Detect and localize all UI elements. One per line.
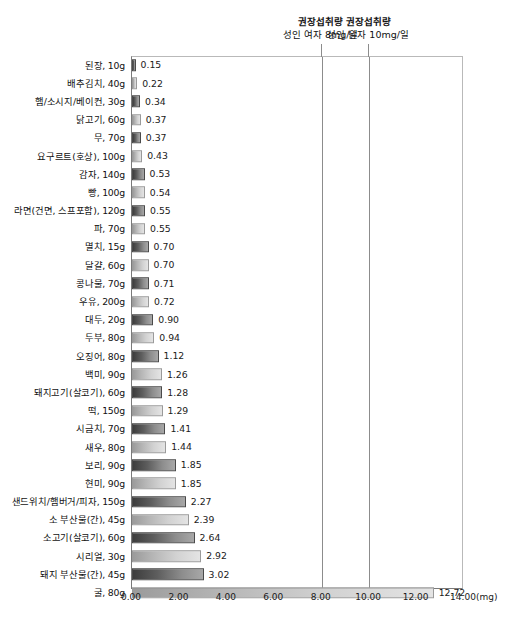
bar-value-label: 0.55 [150,205,171,216]
category-label: 샌드위치/햄버거/피자, 150g [0,496,125,507]
bar-rows: 된장, 10g0.15배추김치, 40g0.22햄/소시지/베이컨, 30g0.… [0,56,509,602]
category-label: 된장, 10g [0,60,125,71]
x-tick-label: 8.00 [311,592,331,602]
bar [132,369,162,381]
bar-container: 3.02 [132,569,229,581]
bar [132,441,166,453]
x-axis-unit: (mg) [476,592,498,602]
bar-container: 0.34 [132,96,166,108]
chart-row: 우유, 200g0.72 [0,292,509,310]
bar-container: 0.22 [132,78,163,90]
bar-container: 0.55 [132,205,171,217]
bar-value-label: 0.70 [154,241,175,252]
bar-value-label: 0.22 [142,78,163,89]
bar-value-label: 0.70 [154,260,175,271]
category-label: 배추김치, 40g [0,78,125,89]
chart-row: 파, 70g0.55 [0,220,509,238]
bar-value-label: 1.29 [168,405,189,416]
category-label: 시리얼, 30g [0,551,125,562]
category-label: 소 부산물(간), 45g [0,514,125,525]
bar-container: 1.26 [132,369,188,381]
bar-container: 0.53 [132,168,170,180]
bar-container: 0.90 [132,314,179,326]
chart-row: 보리, 90g1.85 [0,456,509,474]
x-tick-label: 10.00 [355,592,381,602]
bar-value-label: 2.64 [200,532,221,543]
bar [132,278,149,290]
bar [132,259,149,271]
bar-container: 0.94 [132,332,180,344]
category-label: 새우, 80g [0,442,125,453]
category-label: 햄/소시지/베이컨, 30g [0,96,125,107]
chart-row: 무, 70g0.37 [0,129,509,147]
bar-value-label: 1.44 [171,442,192,453]
category-label: 오징어, 80g [0,351,125,362]
bar [132,168,145,180]
category-label: 현미, 90g [0,478,125,489]
chart-row: 라면(건면, 스프포함), 120g0.55 [0,202,509,220]
bar [132,150,142,162]
chart-row: 멸치, 15g0.70 [0,238,509,256]
chart-row: 시금치, 70g1.41 [0,420,509,438]
bar [132,241,149,253]
bar [132,223,145,235]
chart-row: 소 부산물(간), 45g2.39 [0,511,509,529]
chart-row: 돼지고기(살코기), 60g1.28 [0,383,509,401]
reference-line-annotations: 권장섭취량성인 여자 8mg/일권장섭취량성인 남자 10mg/일 [0,16,509,56]
bar-value-label: 2.92 [206,551,227,562]
category-label: 돼지 부산물(간), 45g [0,569,125,580]
bar-value-label: 0.34 [145,96,166,107]
bar-value-label: 1.85 [181,478,202,489]
bar-container: 0.55 [132,223,171,235]
bar [132,314,153,326]
bar-value-label: 1.28 [167,387,188,398]
bar-container: 1.29 [132,405,188,417]
chart-row: 달걀, 60g0.70 [0,256,509,274]
category-label: 멸치, 15g [0,241,125,252]
x-tick-label: 14.00 [450,592,476,602]
bar [132,496,186,508]
bar [132,96,140,108]
bar [132,187,145,199]
x-tick-label: 2.00 [168,592,188,602]
x-tick-label: 0.00 [121,592,141,602]
chart-row: 떡, 150g1.29 [0,402,509,420]
bar [132,514,189,526]
chart-row: 소고기(살코기), 60g2.64 [0,529,509,547]
bar-container: 1.28 [132,387,188,399]
category-label: 달걀, 60g [0,260,125,271]
reference-line-extension [321,44,322,57]
category-label: 두부, 80g [0,332,125,343]
chart-row: 햄/소시지/베이컨, 30g0.34 [0,92,509,110]
bar [132,423,165,435]
annotation-line-1: 권장섭취량 [327,16,409,29]
category-label: 백미, 90g [0,369,125,380]
category-label: 우유, 200g [0,296,125,307]
category-label: 파, 70g [0,223,125,234]
bar-value-label: 0.37 [146,132,167,143]
bar [132,459,176,471]
reference-line-annotation: 권장섭취량성인 남자 10mg/일 [327,16,409,41]
category-label: 닭고기, 60g [0,114,125,125]
bar-value-label: 0.55 [150,223,171,234]
chart-row: 오징어, 80g1.12 [0,347,509,365]
bar-value-label: 0.54 [150,187,171,198]
bar-container: 0.37 [132,132,166,144]
bar-container: 0.43 [132,150,168,162]
bar-value-label: 1.26 [167,369,188,380]
chart-row: 콩나물, 70g0.71 [0,274,509,292]
x-axis: (mg) 0.002.004.006.008.0010.0012.0014.00 [0,592,509,612]
bar-container: 1.12 [132,350,184,362]
bar [132,332,154,344]
category-label: 감자, 140g [0,169,125,180]
chart-row: 두부, 80g0.94 [0,329,509,347]
bar-value-label: 1.85 [181,460,202,471]
bar-value-label: 0.53 [150,169,171,180]
iron-intake-bar-chart: 권장섭취량성인 여자 8mg/일권장섭취량성인 남자 10mg/일 된장, 10… [0,0,509,633]
bar-value-label: 0.72 [154,296,175,307]
bar-container: 1.85 [132,478,202,490]
bar-container: 2.27 [132,496,212,508]
annotation-line-2: 성인 남자 10mg/일 [327,29,409,42]
bar-container: 1.85 [132,459,202,471]
x-tick-label: 4.00 [216,592,236,602]
